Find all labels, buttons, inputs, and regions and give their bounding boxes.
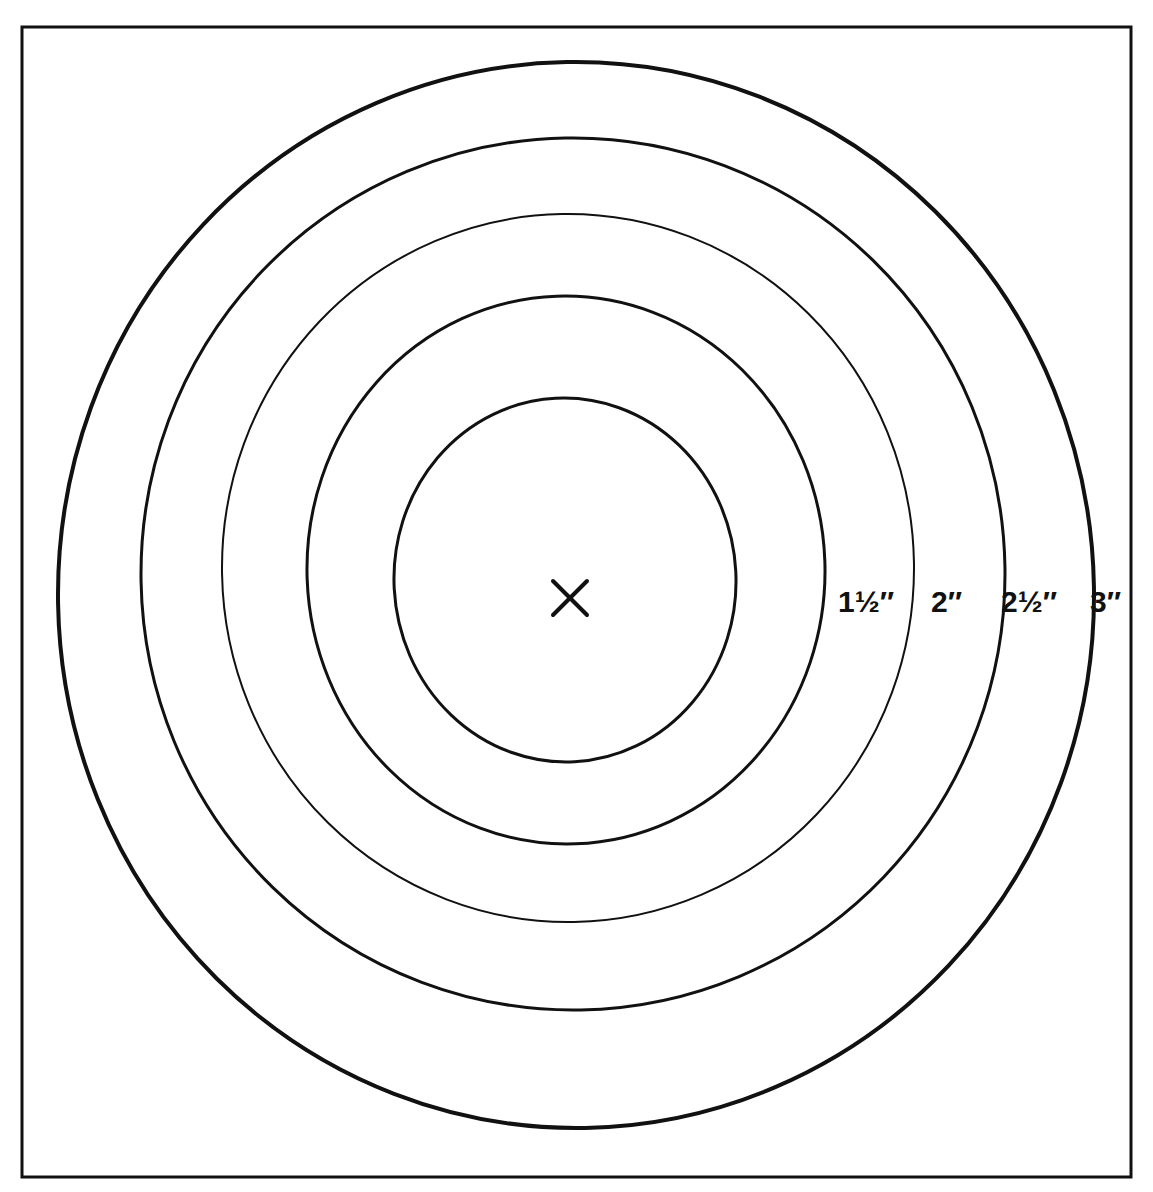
ring-label-3in: 3″ bbox=[1090, 585, 1121, 618]
page-background bbox=[0, 0, 1153, 1192]
figure-page: 1½″ 2″ 2½″ 3″ bbox=[0, 0, 1153, 1192]
ring-label-2half-in: 2½″ bbox=[1001, 585, 1057, 618]
concentric-circles-figure: 1½″ 2″ 2½″ 3″ bbox=[0, 0, 1153, 1192]
ring-label-2in: 2″ bbox=[931, 585, 962, 618]
ring-label-1half-in: 1½″ bbox=[838, 585, 894, 618]
